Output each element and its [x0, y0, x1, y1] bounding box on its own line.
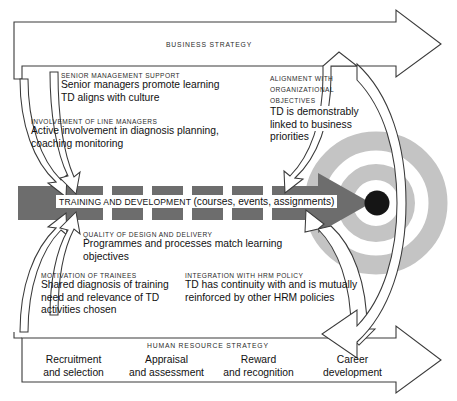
- hr-item-line: Appraisal: [114, 354, 219, 367]
- factor-line: Active involvement in diagnosis planning…: [31, 125, 219, 138]
- factor-line: need and relevance of TD: [41, 292, 169, 305]
- hr-item-line: and assessment: [114, 367, 219, 380]
- factor-line: TD aligns with culture: [61, 92, 220, 105]
- human-resource-strategy-label: HUMAN RESOURCE STRATEGY: [147, 342, 269, 349]
- factor-motivation-of-trainees: MOTIVATION OF TRAINEES Shared diagnosis …: [41, 272, 169, 317]
- factor-senior-management-support: SENIOR MANAGEMENT SUPPORT Senior manager…: [61, 72, 220, 104]
- hr-item-line: Career: [300, 354, 405, 367]
- td-label-suffix: (courses, events, assignments): [193, 196, 334, 207]
- hr-band-left-riser: [14, 332, 22, 338]
- hr-item-career: Career development: [300, 354, 405, 379]
- factor-caption: MOTIVATION OF TRAINEES: [41, 272, 169, 279]
- factor-caption: INVOLVEMENT OF LINE MANAGERS: [31, 118, 219, 125]
- hr-item-recruitment: Recruitment and selection: [21, 354, 126, 379]
- factor-line: TD has continuity with and is mutually: [185, 279, 357, 292]
- hr-item-reward: Reward and recognition: [206, 354, 311, 379]
- factor-alignment-with-organizational-objectives: ALIGNMENT WITH ORGANIZATIONAL OBJECTIVES…: [270, 73, 359, 144]
- factor-line: coaching monitoring: [31, 138, 219, 151]
- business-strategy-label: BUSINESS STRATEGY: [166, 41, 252, 48]
- training-and-development-label: TRAINING AND DEVELOPMENT (courses, event…: [56, 195, 337, 208]
- hr-item-appraisal: Appraisal and assessment: [114, 354, 219, 379]
- factor-caption: INTEGRATION WITH HRM POLICY: [185, 272, 357, 279]
- factor-line: Senior managers promote learning: [61, 79, 220, 92]
- factor-caption: QUALITY OF DESIGN AND DELIVERY: [83, 231, 282, 238]
- factor-integration-with-hrm-policy: INTEGRATION WITH HRM POLICY TD has conti…: [185, 272, 357, 304]
- factor-line: reinforced by other HRM policies: [185, 292, 357, 305]
- factor-quality-of-design-and-delivery: QUALITY OF DESIGN AND DELIVERY Programme…: [83, 231, 282, 263]
- hr-item-line: and selection: [21, 367, 126, 380]
- factor-caption: ALIGNMENT WITH: [270, 73, 359, 84]
- hr-item-line: and recognition: [206, 367, 311, 380]
- factor-line: linked to business: [270, 119, 352, 132]
- hr-item-line: Reward: [206, 354, 311, 367]
- factor-line: Shared diagnosis of training: [41, 279, 169, 292]
- factor-line: TD is demonstrably: [270, 106, 359, 119]
- factor-caption: OBJECTIVES: [270, 95, 359, 106]
- factor-line: objectives: [83, 251, 282, 264]
- factor-caption: ORGANIZATIONAL: [270, 84, 359, 95]
- diagram-canvas: BUSINESS STRATEGY SENIOR MANAGEMENT SUPP…: [0, 0, 457, 401]
- factor-line: priorities: [270, 131, 309, 144]
- factor-line: activities chosen: [41, 304, 169, 317]
- factor-involvement-of-line-managers: INVOLVEMENT OF LINE MANAGERS Active invo…: [31, 118, 219, 150]
- hr-item-line: Recruitment: [21, 354, 126, 367]
- hr-item-line: development: [300, 367, 405, 380]
- factor-caption: SENIOR MANAGEMENT SUPPORT: [61, 72, 220, 79]
- td-label-prefix: TRAINING AND DEVELOPMENT: [59, 197, 191, 207]
- factor-line: Programmes and processes match learning: [83, 238, 282, 251]
